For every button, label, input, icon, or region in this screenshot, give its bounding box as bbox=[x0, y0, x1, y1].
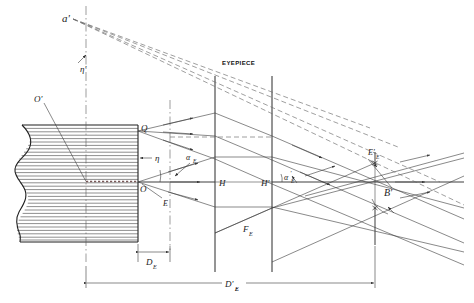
alpha-e-label: α E bbox=[186, 153, 197, 164]
optics-diagram-canvas: a' η' O' Q η O E EYEPIECE H H' α E α E '… bbox=[0, 0, 474, 303]
principal-plane-h-label: H bbox=[218, 178, 226, 188]
leader-eta-prime bbox=[78, 55, 86, 63]
dim-far-subscript-visible: E bbox=[234, 286, 239, 292]
focal-length-label: F E bbox=[242, 224, 253, 237]
focal-length-symbol: F bbox=[242, 224, 249, 234]
alpha-e-prime-tick: ' bbox=[290, 169, 292, 177]
eyepiece-title-label: EYEPIECE bbox=[222, 60, 255, 66]
exit-rays-upper bbox=[215, 153, 464, 262]
entrance-pupil-label: E bbox=[162, 199, 168, 208]
object-center-prime-label: O' bbox=[34, 94, 43, 104]
alpha-e-prime-symbol: α bbox=[284, 173, 289, 182]
dim-near-symbol: D bbox=[145, 257, 153, 267]
hatch-lines bbox=[15, 128, 138, 240]
alpha-e-prime-arc bbox=[281, 174, 282, 182]
ray-bundle-from-o bbox=[138, 157, 464, 252]
virtual-image-height-label: η' bbox=[80, 64, 87, 74]
object-block-hatched bbox=[15, 125, 138, 242]
alpha-e-subscript: E bbox=[192, 158, 197, 164]
angle-markers bbox=[160, 152, 392, 245]
dimension-near-label: D E bbox=[145, 257, 157, 270]
exit-pupil-label: E' E bbox=[367, 148, 380, 160]
eyepiece-principal-planes bbox=[215, 76, 272, 272]
alpha-e-prime-subscript: E bbox=[290, 178, 295, 184]
alpha-e-symbol: α bbox=[186, 153, 191, 162]
object-top-label: Q bbox=[141, 123, 148, 133]
dim-near-subscript: E bbox=[152, 264, 157, 270]
exit-angle-label: B' bbox=[384, 187, 393, 198]
virtual-image-point-label: a' bbox=[62, 12, 71, 24]
alpha-e-arc bbox=[160, 170, 161, 182]
focal-length-subscript: E bbox=[248, 231, 253, 237]
dim-far-symbol-visible: D' bbox=[224, 279, 234, 289]
object-height-label: η bbox=[155, 153, 160, 163]
exit-pupil-symbol: E' bbox=[367, 148, 375, 157]
exit-pupil-subscript: E bbox=[375, 154, 380, 160]
principal-plane-h-prime-label: H' bbox=[260, 178, 270, 188]
ray-bundle-from-q bbox=[138, 113, 464, 265]
object-axis-point-label: O bbox=[140, 184, 147, 194]
leader-lines bbox=[44, 55, 394, 213]
optical-ray-diagram: a' η' O' Q η O E EYEPIECE H H' α E α E '… bbox=[0, 0, 474, 303]
